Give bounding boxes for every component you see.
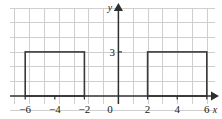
y-axis-name-label: y [107, 2, 113, 13]
y-axis [114, 3, 123, 104]
x-tick-label-4: 4 [174, 103, 180, 115]
x-axis-arrow-icon [211, 91, 219, 100]
x-tick-label-neg2: −2 [79, 103, 91, 115]
origin-label: 0 [107, 103, 113, 115]
x-axis [10, 91, 219, 100]
y-axis-arrow-icon [114, 3, 123, 11]
y-tick-label-3: 3 [110, 46, 116, 58]
x-axis-name-label: x [212, 104, 218, 115]
x-tick-label-2: 2 [145, 103, 151, 115]
x-tick-label-neg4: −4 [49, 103, 61, 115]
left-rectangle-shape [25, 52, 84, 96]
coordinate-graph-figure: −6 −4 −2 2 4 6 0 3 y x [0, 0, 222, 119]
graph-canvas: −6 −4 −2 2 4 6 0 3 y x [0, 0, 222, 119]
x-tick-label-6: 6 [204, 103, 210, 115]
x-tick-label-neg6: −6 [19, 103, 31, 115]
